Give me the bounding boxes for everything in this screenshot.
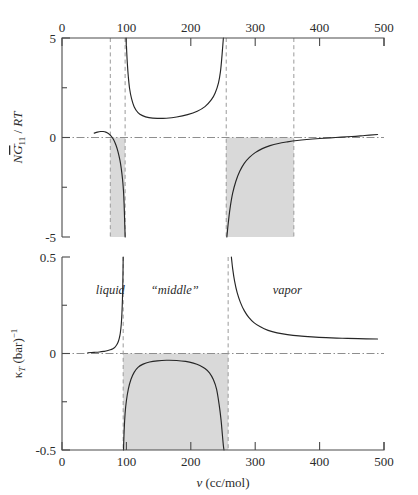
xtick-label-top-500: 500 <box>374 20 394 35</box>
thermodynamic-stability-figure: 010020030040050050-5NḠ11 / RT0100200300… <box>0 0 418 495</box>
curve-bottom-vapor-branch <box>231 257 377 339</box>
shaded-region-top-1 <box>226 138 294 238</box>
ytick-label-top-5: 5 <box>50 31 57 46</box>
xtick-label-top-300: 300 <box>245 20 265 35</box>
ylabel-bottom: κT (bar)−1 <box>9 329 27 379</box>
xtick-label-top-0: 0 <box>59 20 66 35</box>
ytick-label-top--5: -5 <box>45 230 56 245</box>
ytick-label-bottom-0: 0 <box>50 346 57 361</box>
xtick-label-bottom-0: 0 <box>59 454 66 469</box>
ylabel-top: NḠ11 / RT <box>10 111 27 165</box>
xtick-label-bottom-200: 200 <box>181 454 201 469</box>
xtick-label-bottom-400: 400 <box>310 454 330 469</box>
xtick-label-bottom-500: 500 <box>374 454 394 469</box>
curve-bottom-liquid-branch <box>88 257 123 353</box>
curve-top-middle-branch-unstable <box>126 38 223 118</box>
ytick-label-top-0: 0 <box>50 130 57 145</box>
xtick-label-bottom-300: 300 <box>245 454 265 469</box>
xlabel-bottom: v (cc/mol) <box>196 475 249 490</box>
region-label-vapor: vapor <box>273 283 302 297</box>
shaded-region-bottom-0 <box>123 354 228 451</box>
region-label-middle: “middle” <box>151 283 199 297</box>
xtick-label-top-100: 100 <box>117 20 137 35</box>
ytick-label-bottom-0_5: 0.5 <box>40 250 56 265</box>
svg-text:NḠ11 / RT: NḠ11 / RT <box>10 111 27 165</box>
ytick-label-bottom-m0_5: -0.5 <box>35 443 56 458</box>
xtick-label-top-400: 400 <box>310 20 330 35</box>
svg-text:κT (bar)−1: κT (bar)−1 <box>9 329 27 379</box>
xtick-label-bottom-100: 100 <box>117 454 137 469</box>
region-label-liquid: liquid <box>96 283 126 297</box>
xtick-label-top-200: 200 <box>181 20 201 35</box>
figure-canvas: 010020030040050050-5NḠ11 / RT0100200300… <box>0 0 418 495</box>
